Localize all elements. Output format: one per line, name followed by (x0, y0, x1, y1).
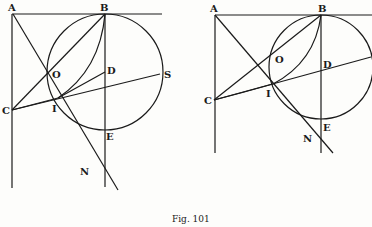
left-figure: A B C O I D S E N (2, 2, 171, 190)
label-i: I (266, 88, 271, 99)
label-d: D (323, 59, 332, 70)
label-o: O (52, 69, 61, 80)
label-n: N (80, 166, 89, 177)
figure-caption: Fig. 101 (172, 214, 210, 224)
line-ain (13, 14, 118, 190)
label-s: S (164, 69, 171, 80)
label-c: C (2, 105, 10, 116)
label-d: D (107, 65, 116, 76)
label-o: O (275, 54, 284, 65)
label-e: E (323, 122, 331, 133)
right-figure: A B C O I D E N (204, 3, 372, 153)
label-e: E (106, 131, 114, 142)
label-c: C (204, 95, 212, 106)
label-i: I (52, 103, 57, 114)
label-b: B (318, 3, 326, 14)
arc-ci (214, 84, 273, 100)
geometry-figure: A B C O I D S E N A B C O I D E N Fig. 1… (0, 0, 372, 227)
label-a: A (7, 2, 16, 13)
label-n: N (303, 133, 312, 144)
arc-ib (273, 15, 321, 84)
label-b: B (100, 2, 108, 13)
label-a: A (209, 3, 218, 14)
